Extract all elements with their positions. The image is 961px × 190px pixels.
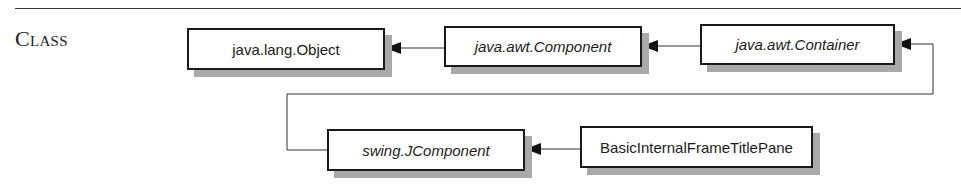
class-node-titlepane: BasicInternalFrameTitlePane bbox=[580, 126, 813, 168]
edge-container-to-component bbox=[642, 40, 700, 52]
class-node-container: java.awt.Container bbox=[700, 24, 895, 65]
class-node-object: java.lang.Object bbox=[187, 28, 385, 70]
arrowhead-icon bbox=[385, 42, 401, 54]
class-node-component: java.awt.Component bbox=[444, 26, 642, 67]
edge-component-to-object bbox=[385, 42, 444, 54]
arrowhead-icon bbox=[642, 40, 658, 52]
arrowhead-icon bbox=[525, 143, 541, 155]
class-node-jcomponent: swing.JComponent bbox=[327, 129, 525, 171]
arrowhead-icon bbox=[895, 38, 911, 50]
edge-titlepane-to-jcomponent bbox=[525, 143, 580, 155]
